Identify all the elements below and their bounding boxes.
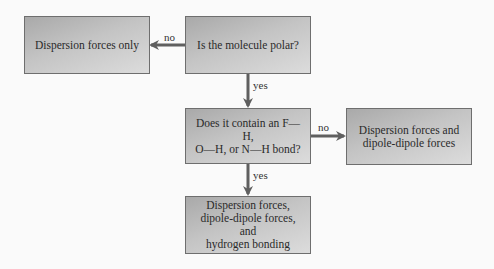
node-dipole-result: Dispersion forces and dipole-dipole forc… (346, 108, 472, 165)
edge-label-hbond-yes: yes (253, 169, 268, 181)
node-dipole-result-text: Dispersion forces and dipole-dipole forc… (359, 124, 459, 150)
node-hbond-result: Dispersion forces, dipole-dipole forces,… (185, 196, 311, 254)
node-hbond-question: Does it contain an F—H, O—H, or N—H bond… (185, 108, 311, 164)
edge-label-polar-yes: yes (253, 79, 268, 91)
node-is-molecule-polar-text: Is the molecule polar? (197, 39, 299, 52)
edge-label-polar-no: no (164, 31, 175, 43)
node-hbond-result-text: Dispersion forces, dipole-dipole forces,… (192, 199, 304, 251)
edge-label-hbond-no: no (318, 121, 329, 133)
node-dispersion-only: Dispersion forces only (24, 16, 150, 74)
node-is-molecule-polar: Is the molecule polar? (185, 16, 311, 74)
node-dispersion-only-text: Dispersion forces only (35, 39, 139, 52)
node-hbond-question-text: Does it contain an F—H, O—H, or N—H bond… (192, 117, 304, 156)
